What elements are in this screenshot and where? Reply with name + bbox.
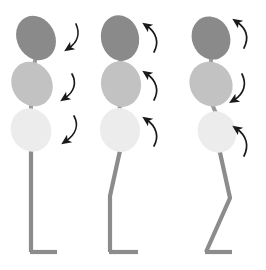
- pelvis-rotation-arrow: [66, 116, 76, 141]
- head-segment: [97, 12, 144, 65]
- figure-2-canvas: [88, 0, 176, 270]
- head-rotation-arrow: [69, 24, 78, 48]
- figure-1-canvas: [0, 0, 88, 270]
- thorax-segment: [3, 54, 61, 114]
- pelvis-segment: [191, 105, 244, 159]
- thorax-segment: [98, 58, 144, 109]
- thorax-rotation-arrow: [65, 74, 74, 98]
- pelvis-rotation-arrow: [147, 120, 157, 146]
- head-rotation-arrow: [147, 26, 157, 52]
- head-segment: [8, 9, 63, 67]
- figure-3-flexion-stance: [178, 0, 266, 270]
- thorax-segment: [181, 53, 242, 115]
- figure-1-neutral-stance: [0, 0, 88, 270]
- head-rotation-arrow: [237, 22, 247, 48]
- thorax-rotation-arrow: [234, 74, 244, 100]
- figure-2-extension-stance: [88, 0, 176, 270]
- figure-3-canvas: [178, 0, 266, 270]
- leg-line: [206, 148, 230, 252]
- thorax-rotation-arrow: [147, 74, 157, 100]
- pelvis-rotation-arrow: [237, 129, 247, 156]
- pelvis-segment: [96, 105, 143, 155]
- posture-diagram-panel: [0, 0, 266, 270]
- leg-line: [110, 146, 121, 252]
- pelvis-segment: [4, 102, 59, 159]
- head-segment: [185, 10, 237, 65]
